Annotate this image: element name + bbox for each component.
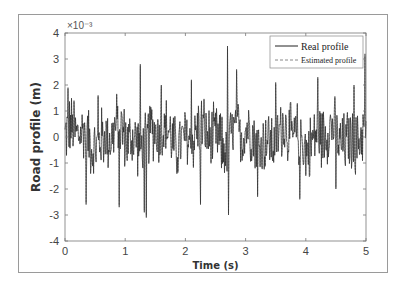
x-tick-label: 1	[122, 245, 128, 257]
y-tick-label: 2	[53, 79, 59, 91]
y-tick-label: 4	[53, 27, 59, 39]
x-tick-label: 0	[62, 245, 68, 257]
x-axis-label: Time (s)	[192, 260, 238, 271]
y-axis-label: Road profile (m)	[29, 82, 43, 192]
y-tick-label: 0	[53, 131, 59, 143]
y-tick-label: -2	[49, 183, 59, 195]
x-tick-label: 3	[243, 245, 249, 257]
legend-real-label: Real profile	[301, 41, 349, 52]
line-chart: 012345-4-3-2-101234×10⁻³Time (s)Road pro…	[0, 0, 405, 290]
y-tick-label: 3	[53, 53, 59, 65]
y-tick-label: -4	[49, 235, 59, 247]
x-tick-label: 5	[363, 245, 369, 257]
real-profile-line	[65, 46, 366, 218]
y-tick-label: -3	[49, 209, 59, 221]
y-multiplier-label: ×10⁻³	[67, 20, 93, 31]
x-tick-label: 2	[182, 245, 188, 257]
x-tick-label: 4	[303, 245, 309, 257]
legend-estimated-label: Estimated profile	[301, 56, 357, 65]
y-tick-label: 1	[53, 105, 59, 117]
y-tick-label: -1	[49, 157, 59, 169]
